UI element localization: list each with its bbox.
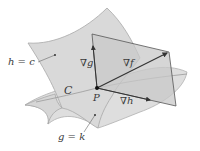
leader-g-dot [94,114,96,116]
lagrange-two-constraints-diagram: h = c g = k C P ∇g ∇f ∇h [0,0,200,151]
label-point-p: P [92,92,100,103]
label-g-equals-k: g = k [58,131,85,142]
label-grad-g: ∇g [80,57,93,68]
diagram-svg: h = c g = k C P ∇g ∇f ∇h [0,0,200,151]
label-grad-h: ∇h [120,95,133,106]
point-p-dot [95,86,99,90]
leader-h-dot [54,54,56,56]
label-h-equals-c: h = c [8,56,35,67]
surface-g-left-flap [25,94,62,124]
label-curve-c: C [64,84,73,97]
